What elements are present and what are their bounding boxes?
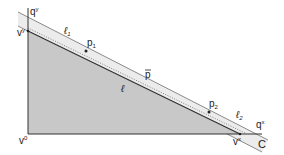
- label-vy: vy: [17, 27, 25, 38]
- point-p2: [208, 111, 211, 114]
- point-p1: [85, 50, 88, 53]
- label-l1: ℓ1: [63, 25, 71, 37]
- label-p2: p2: [209, 98, 219, 110]
- label-c: C: [258, 138, 266, 150]
- label-l2: ℓ2: [235, 109, 243, 121]
- label-qy: qy: [30, 6, 39, 17]
- diagram-canvas: qy vy v0 vx qx C ℓ1 ℓ2 ℓ p1 p2 p: [0, 0, 284, 155]
- label-pbar: p: [145, 69, 151, 80]
- label-vx: vx: [233, 136, 241, 147]
- point-vy: [27, 30, 30, 33]
- label-qx: qx: [256, 119, 265, 130]
- point-vx: [239, 133, 242, 136]
- label-v0: v0: [19, 135, 28, 146]
- label-p1: p1: [87, 37, 97, 49]
